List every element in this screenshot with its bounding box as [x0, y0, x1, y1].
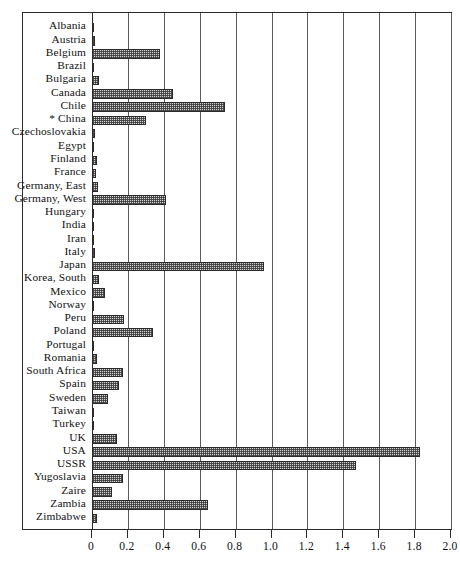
x-axis-tick — [450, 530, 451, 538]
y-axis-label: Taiwan — [52, 405, 86, 417]
bar — [92, 169, 96, 179]
y-axis-label: Peru — [65, 312, 86, 324]
bar — [92, 23, 94, 33]
bar — [92, 434, 117, 444]
bar — [92, 156, 97, 166]
x-axis: 00.20.40.60.81.01.21.41.61.82.0 — [22, 530, 452, 564]
y-axis-label: Romania — [44, 352, 86, 364]
bar — [92, 36, 95, 46]
bar — [92, 275, 99, 285]
y-axis-label: Germany, West — [14, 193, 86, 205]
bar — [92, 354, 97, 364]
y-axis-label: Zaire — [61, 485, 86, 497]
bar — [92, 182, 98, 192]
y-axis-label: Korea, South — [24, 272, 86, 284]
y-axis-label: Czechoslovakia — [12, 126, 86, 138]
bar — [92, 368, 123, 378]
y-axis-label: Zambia — [50, 498, 86, 510]
y-axis-label: France — [54, 166, 86, 178]
y-axis-label: Turkey — [53, 418, 86, 430]
y-axis-label: Yugoslavia — [34, 471, 86, 483]
y-axis-label: Italy — [64, 246, 86, 258]
y-axis-label: India — [62, 219, 86, 231]
bar — [92, 514, 97, 524]
x-axis-tick-label: 0.6 — [191, 540, 206, 553]
x-axis-tick — [414, 530, 415, 538]
x-axis-tick — [127, 530, 128, 538]
bar — [92, 49, 160, 59]
x-axis-tick-label: 1.2 — [299, 540, 314, 553]
y-axis-label: Portugal — [46, 339, 86, 351]
bar — [92, 195, 166, 205]
x-axis-tick-label: 0.4 — [155, 540, 170, 553]
bar — [92, 116, 146, 126]
bar — [92, 102, 225, 112]
y-axis-label: Iran — [67, 233, 86, 245]
x-axis-tick — [199, 530, 200, 538]
bar — [92, 209, 94, 219]
bar — [92, 328, 153, 338]
y-axis-label: Norway — [48, 299, 86, 311]
x-axis-tick-label: 1.8 — [407, 540, 422, 553]
y-axis-label: Egypt — [58, 140, 86, 152]
y-axis-label: Hungary — [45, 206, 86, 218]
x-axis-tick — [91, 530, 92, 538]
y-axis-label: Zimbabwe — [36, 511, 86, 523]
y-axis-label: Mexico — [50, 286, 86, 298]
bar — [92, 474, 123, 484]
bar — [92, 222, 94, 232]
y-axis-label: USA — [63, 445, 86, 457]
y-axis-label: Canada — [51, 87, 86, 99]
bar — [92, 76, 99, 86]
y-axis-label: Poland — [53, 325, 86, 337]
bar — [92, 447, 420, 457]
y-axis-label: UK — [69, 432, 86, 444]
y-axis-label: Sweden — [49, 392, 86, 404]
y-axis-label: Chile — [61, 100, 86, 112]
x-axis-tick — [271, 530, 272, 538]
x-axis-tick — [306, 530, 307, 538]
bar — [92, 301, 94, 311]
y-axis-label: Bulgaria — [46, 73, 86, 85]
chart-container: AlbaniaAustriaBelgiumBrazilBulgariaCanad… — [0, 0, 460, 568]
bar — [92, 235, 94, 245]
y-axis-label: South Africa — [26, 365, 86, 377]
y-axis-label: Albania — [49, 20, 86, 32]
bar — [92, 394, 108, 404]
gridline-2.0 — [451, 13, 452, 529]
x-axis-tick-label: 2.0 — [442, 540, 457, 553]
y-axis-label: Austria — [51, 34, 86, 46]
x-axis-tick — [163, 530, 164, 538]
x-axis-tick-label: 1.4 — [335, 540, 350, 553]
bar — [92, 248, 95, 258]
bar — [92, 63, 94, 73]
bar — [92, 408, 94, 418]
x-axis-tick-label: 0 — [88, 540, 94, 553]
y-axis-label: Germany, East — [17, 180, 86, 192]
bar — [92, 315, 124, 325]
bar — [92, 421, 94, 431]
bar — [92, 142, 94, 152]
y-axis-label: Brazil — [57, 60, 86, 72]
x-axis-tick-label: 0.8 — [227, 540, 242, 553]
bar — [92, 341, 94, 351]
bar — [92, 89, 173, 99]
bar — [92, 129, 95, 139]
x-axis-tick-label: 1.0 — [263, 540, 278, 553]
bar — [92, 288, 105, 298]
bar — [92, 487, 112, 497]
bar — [92, 262, 264, 272]
x-axis-tick — [235, 530, 236, 538]
y-axis-label: Japan — [59, 259, 86, 271]
x-axis-tick — [342, 530, 343, 538]
bar — [92, 461, 356, 471]
y-axis-label: Finland — [50, 153, 86, 165]
bar — [92, 500, 208, 510]
y-axis-category-labels: AlbaniaAustriaBelgiumBrazilBulgariaCanad… — [0, 12, 89, 530]
x-axis-tick — [378, 530, 379, 538]
x-axis-tick-label: 0.2 — [119, 540, 134, 553]
y-axis-label: Belgium — [46, 47, 86, 59]
x-axis-tick-label: 1.6 — [371, 540, 386, 553]
y-axis-label: * China — [49, 113, 86, 125]
y-axis-label: Spain — [59, 378, 86, 390]
